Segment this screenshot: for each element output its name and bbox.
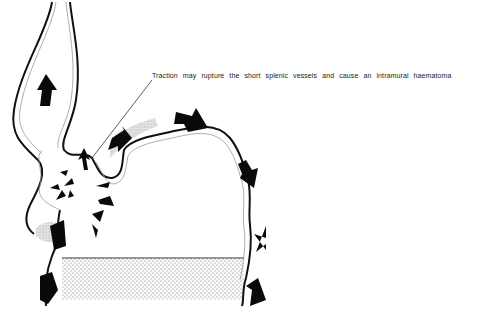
stippled-viscus [62, 258, 244, 300]
annotation-caption: Traction may rupture the short splenic v… [152, 72, 451, 79]
arrow-fundus-1 [174, 108, 208, 132]
arrow-right-mid [254, 226, 266, 252]
oesophagus-left-wall [13, 2, 52, 234]
diagram-illustration [0, 0, 485, 313]
arrow-right-low [246, 278, 266, 306]
arrow-up-oesophagus [37, 74, 57, 106]
arrow-left-low [40, 272, 58, 304]
